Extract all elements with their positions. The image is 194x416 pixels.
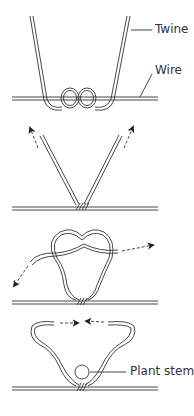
label-plant-stem: Plant stem (130, 364, 194, 378)
step-3-panel (12, 230, 158, 305)
step-2-panel (12, 127, 158, 210)
step-1-panel (12, 16, 158, 110)
label-twine: Twine (155, 22, 188, 36)
step-4-panel (12, 321, 158, 391)
label-wire: Wire (155, 63, 182, 77)
